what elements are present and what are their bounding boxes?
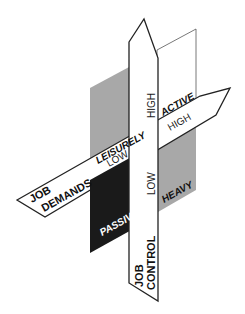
control-high-label: HIGH [146,93,157,118]
control-title-line2: CONTROL [145,235,157,290]
control-title-line1: JOB [133,264,145,287]
control-low-label: LOW [146,172,157,195]
job-strain-diagram: LEISURELY ACTIVE PASSIVE HEAVY LOW HIGH … [0,0,245,314]
